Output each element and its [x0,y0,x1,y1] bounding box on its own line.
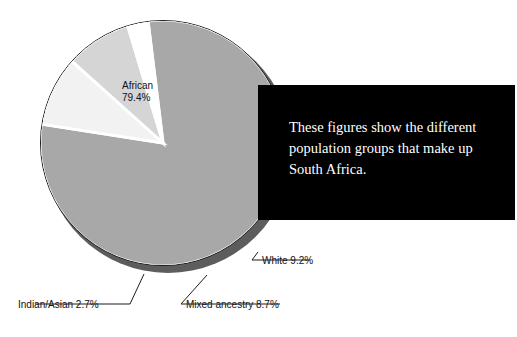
pie-circle [40,20,286,266]
pie-svg [41,21,285,265]
slice-label-indian-asian: Indian/Asian 2.7% [18,299,99,311]
slice-label-mixed-ancestry: Mixed ancestry 8.7% [186,299,279,311]
slice-label-african-value: 79.4% [122,92,153,104]
pie-chart [40,20,292,272]
caption-text: These figures show the different populat… [289,117,494,180]
slice-label-african: African 79.4% [122,80,153,104]
slice-label-white: White 9.2% [262,255,313,267]
slice-label-african-name: African [122,80,153,92]
chart-page: African 79.4% White 9.2% Mixed ancestry … [0,0,517,337]
